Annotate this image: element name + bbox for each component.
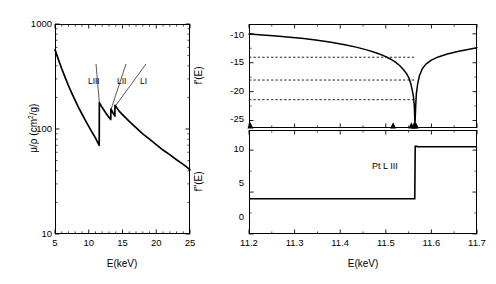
pt-l3-annotation: Pt L III	[372, 161, 398, 171]
f-prime-edge-markers	[247, 122, 419, 128]
left-xaxis-title: E(keV)	[82, 258, 162, 269]
f-prime-curve-svg	[249, 24, 477, 128]
tr-ytick-minus10: -10	[206, 30, 244, 40]
panel-tr-plot-area	[249, 24, 477, 128]
panel-f-double-prime	[249, 130, 477, 234]
left-yaxis-title-exponent: 2	[27, 115, 34, 119]
left-yaxis-title: μ/ρ (cm2/g)	[27, 73, 39, 183]
br-ytick-5: 5	[206, 178, 244, 188]
panel-left-plot-area	[55, 24, 190, 234]
left-xtick-25: 25	[180, 238, 200, 248]
edge-leader-lines	[96, 64, 146, 110]
left-yaxis-title-tail: /g)	[28, 104, 39, 116]
figure-root: 1000 100 10 5 10 15 20 25 E(keV) μ/ρ (cm…	[0, 0, 496, 284]
tr-ytick-minus15: -15	[206, 57, 244, 67]
absorption-curve-svg	[55, 24, 190, 234]
f-prime-reference-lines	[249, 57, 415, 99]
br-xtick-11-2: 11.2	[239, 238, 259, 248]
br-ytick-10: 10	[206, 144, 244, 154]
br-xtick-11-3: 11.3	[285, 238, 305, 248]
panel-absorption-coefficient	[55, 24, 190, 234]
edge-label-LII: LII	[117, 76, 126, 86]
f-prime-curve	[249, 34, 477, 125]
edge-label-LIII: LIII	[88, 76, 100, 86]
left-xtick-5: 5	[45, 238, 65, 248]
tr-yaxis-title: f'(E)	[193, 46, 204, 106]
br-xtick-11-4: 11.4	[330, 238, 350, 248]
tr-ytick-minus25: -25	[206, 114, 244, 124]
left-yaxis-title-main: μ/ρ (cm	[28, 119, 39, 153]
tr-axis-ticks	[249, 24, 477, 128]
br-xtick-11-6: 11.6	[421, 238, 441, 248]
mass-absorption-curve	[55, 50, 190, 170]
left-xtick-10: 10	[79, 238, 99, 248]
tr-ytick-minus20: -20	[206, 86, 244, 96]
left-xtick-15: 15	[113, 238, 133, 248]
panel-br-plot-area	[249, 130, 477, 234]
f-double-prime-curve-svg	[249, 130, 477, 234]
f-double-prime-curve	[249, 146, 477, 198]
br-xtick-11-5: 11.5	[376, 238, 396, 248]
br-xtick-11-7: 11.7	[467, 238, 487, 248]
panel-f-prime	[249, 24, 477, 128]
edge-label-LI: LI	[140, 76, 147, 86]
br-ytick-0: 0	[206, 212, 244, 222]
br-xaxis-title: E(keV)	[323, 258, 403, 269]
br-yaxis-title: f''(E)	[193, 152, 204, 212]
left-ytick-1000: 1000	[12, 19, 52, 29]
left-axis-ticks	[55, 24, 190, 234]
br-axis-ticks	[249, 130, 477, 234]
left-xtick-20: 20	[146, 238, 166, 248]
